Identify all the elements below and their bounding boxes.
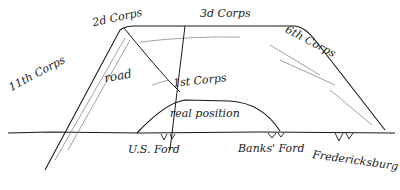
- us-ford-marker: [161, 134, 175, 140]
- river-line: [8, 132, 395, 133]
- label-banks-ford: Banks' Ford: [238, 143, 305, 154]
- label-us-ford: U.S. Ford: [128, 144, 180, 155]
- inner-faint-line-right-3: [330, 90, 372, 125]
- dash-mark: [152, 80, 168, 85]
- inner-faint-line-right-2: [280, 60, 335, 85]
- banks-ford-marker: [268, 133, 284, 138]
- label-real-position: real position: [170, 108, 240, 119]
- inner-faint-line-left-2: [68, 40, 130, 150]
- label-3d-corps: 3d Corps: [200, 8, 251, 19]
- inner-faint-line-top: [140, 37, 240, 42]
- road-line: [124, 28, 180, 92]
- fredericksburg-marker: [335, 133, 353, 141]
- inner-faint-line-left: [55, 38, 125, 160]
